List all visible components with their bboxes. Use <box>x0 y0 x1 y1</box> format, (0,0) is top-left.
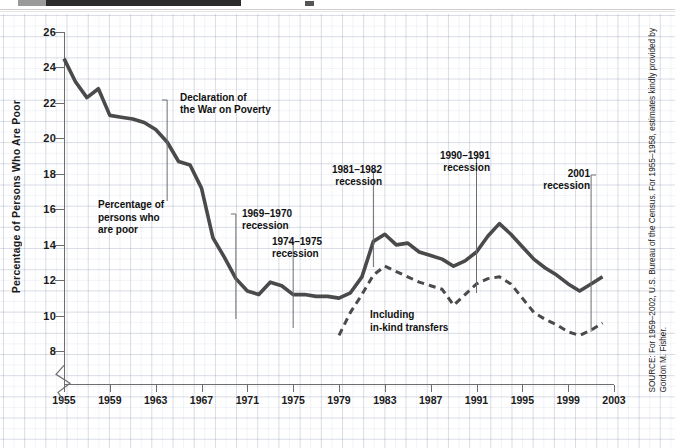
annotation-recession-1981: 1981–1982 recession <box>314 164 382 188</box>
annotation-recession-1969: 1969–1970 recession <box>242 208 292 232</box>
annotation-war-on-poverty: Declaration of the War on Poverty <box>180 92 271 116</box>
poverty-rate-figure: Percentage of Persons Who Are Poor 81012… <box>0 0 675 448</box>
window-chrome-strip <box>0 0 675 9</box>
annotation-recession-1974: 1974–1975 recession <box>272 236 322 260</box>
leader-recession-2001 <box>591 175 596 332</box>
leader-war-on-poverty <box>162 100 167 201</box>
annotation-in-kind-transfers: Including in-kind transfers <box>370 309 448 334</box>
annotation-recession-2001: 2001 recession <box>528 168 590 192</box>
annotation-series-label: Percentage of persons who are poor <box>98 199 164 237</box>
leader-recession-1990 <box>477 157 482 293</box>
leader-recession-1969 <box>231 214 236 319</box>
source-note-text: SOURCE: For 1959–2002, U.S. Bureau of th… <box>647 28 669 393</box>
chrome-tick-mark <box>305 1 314 6</box>
chrome-grey-bar <box>18 0 46 6</box>
header-divider-secondary <box>0 11 675 12</box>
source-note: SOURCE: For 1959–2002, U.S. Bureau of th… <box>647 28 673 448</box>
annotation-recession-1990: 1990–1991 recession <box>422 150 490 174</box>
y-axis-break-icon <box>56 365 70 401</box>
chart-figure: Percentage of Persons Who Are Poor 81012… <box>0 14 675 448</box>
header-divider <box>0 9 675 10</box>
chrome-dark-bar <box>46 0 241 6</box>
